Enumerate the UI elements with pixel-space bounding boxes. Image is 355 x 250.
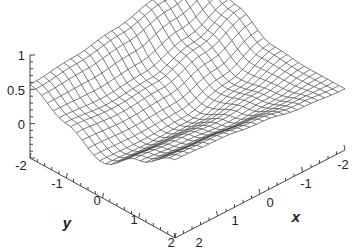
- x-tick-label: 0: [266, 195, 273, 210]
- y-tick-label: -2: [15, 158, 27, 173]
- z-tick-label: 0: [18, 117, 25, 132]
- tick-mark: [66, 173, 67, 178]
- surface-plot: 1 0.5 0 -2 -1 0 1 2 2 1 0 -1 -2 y x: [0, 0, 355, 250]
- mesh-line: [82, 22, 252, 140]
- tick-mark: [103, 193, 104, 198]
- y-tick-labels: -2 -1 0 1 2: [15, 158, 174, 250]
- mesh-line: [94, 38, 264, 156]
- x-axis-title: x: [291, 208, 301, 225]
- mesh-line: [180, 0, 325, 98]
- x-tick-labels: 2 1 0 -1 -2: [195, 157, 348, 250]
- x-tick-label: 1: [231, 213, 238, 228]
- y-axis-title: y: [62, 214, 72, 231]
- mesh-line: [186, 0, 331, 95]
- tick-mark: [259, 189, 260, 194]
- mesh-line: [146, 73, 316, 163]
- mesh-line: [30, 0, 200, 85]
- surface-mesh: [30, 0, 345, 164]
- y-tick-label: 1: [130, 212, 137, 227]
- x-tick-label: -1: [300, 176, 312, 191]
- y-tick-label: -1: [51, 176, 63, 191]
- z-tick-labels: 1 0.5 0: [7, 48, 25, 132]
- mesh-line: [88, 30, 258, 148]
- z-tick-label: 1: [18, 48, 25, 63]
- x-tick-label: -2: [337, 157, 349, 172]
- mesh-line: [123, 59, 293, 161]
- y-tick-label: 2: [167, 235, 174, 250]
- y-tick-label: 0: [93, 193, 100, 208]
- tick-mark: [302, 167, 303, 172]
- z-tick-label: 0.5: [7, 83, 25, 98]
- mesh-line: [100, 44, 270, 161]
- tick-mark: [139, 213, 140, 218]
- mesh-line: [36, 0, 206, 89]
- mesh-line: [47, 0, 217, 103]
- tick-mark: [217, 211, 218, 216]
- mesh-line: [57, 67, 202, 151]
- tick-mark: [344, 145, 345, 150]
- x-tick-label: 2: [195, 235, 202, 250]
